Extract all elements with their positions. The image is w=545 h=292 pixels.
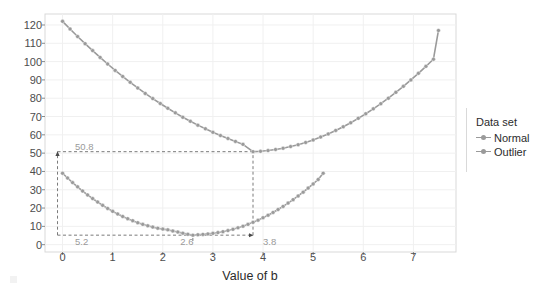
y-tick-label: 50 bbox=[8, 148, 42, 158]
legend: Data set Normal Outlier bbox=[476, 116, 542, 159]
y-tick-label: 120 bbox=[8, 20, 42, 30]
annotation-label: 5.2 bbox=[75, 237, 88, 247]
x-tick-label: 2 bbox=[148, 252, 178, 263]
x-tick-label: 6 bbox=[348, 252, 378, 263]
x-tick-label: 5 bbox=[298, 252, 328, 263]
x-tick-label: 3 bbox=[198, 252, 228, 263]
legend-item-outlier[interactable]: Outlier bbox=[476, 145, 542, 158]
annotation-label: 2.6 bbox=[180, 237, 193, 247]
panel-border bbox=[45, 14, 456, 252]
legend-item-normal[interactable]: Normal bbox=[476, 131, 542, 144]
y-tick-label: 30 bbox=[8, 185, 42, 195]
annotation-label: 3.8 bbox=[263, 237, 276, 247]
x-tick-label: 1 bbox=[98, 252, 128, 263]
y-tick-label: 20 bbox=[8, 203, 42, 213]
y-tick-label: 90 bbox=[8, 75, 42, 85]
y-tick-label: 40 bbox=[8, 166, 42, 176]
y-tick-label: 80 bbox=[8, 93, 42, 103]
y-axis-tick-labels: 0102030405060708090100110120 bbox=[8, 0, 42, 292]
legend-divider bbox=[466, 108, 467, 172]
x-tick-label: 7 bbox=[398, 252, 428, 263]
chart-figure: Sum of squared error Value of b 01020304… bbox=[0, 0, 545, 292]
y-tick-label: 0 bbox=[8, 240, 42, 250]
x-axis-title: Value of b bbox=[45, 269, 455, 283]
y-tick-label: 70 bbox=[8, 112, 42, 122]
legend-item-label: Outlier bbox=[494, 146, 526, 158]
legend-title: Data set bbox=[476, 116, 542, 128]
legend-item-label: Normal bbox=[494, 132, 529, 144]
annotation-label: 50.8 bbox=[75, 142, 94, 152]
x-tick-label: 4 bbox=[248, 252, 278, 263]
x-axis-tick-labels: 01234567 bbox=[0, 252, 545, 268]
legend-marker-icon bbox=[476, 131, 491, 144]
y-tick-label: 60 bbox=[8, 130, 42, 140]
y-tick-label: 10 bbox=[8, 221, 42, 231]
y-tick-label: 110 bbox=[8, 38, 42, 48]
corner-artifact bbox=[10, 276, 17, 283]
legend-marker-icon bbox=[476, 145, 491, 158]
x-tick-label: 0 bbox=[48, 252, 78, 263]
y-tick-label: 100 bbox=[8, 57, 42, 67]
